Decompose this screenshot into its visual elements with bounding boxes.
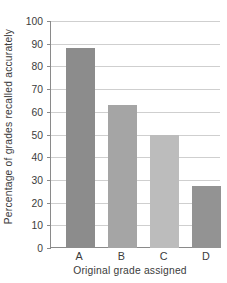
y-axis-tick-label: 100 xyxy=(26,16,43,27)
bar-b xyxy=(108,105,137,248)
y-axis-tick-mark xyxy=(47,135,51,136)
x-axis-title: Original grade assigned xyxy=(40,265,220,276)
y-axis-tick-mark xyxy=(47,21,51,22)
y-axis-tick-mark xyxy=(47,180,51,181)
y-axis-tick-mark xyxy=(47,225,51,226)
y-axis-tick-mark xyxy=(47,66,51,67)
y-axis-tick-label: 10 xyxy=(32,220,43,231)
gridline xyxy=(51,44,220,45)
y-axis-tick-label: 40 xyxy=(32,152,43,163)
x-axis-tick-label: B xyxy=(118,250,125,262)
y-axis-tick-mark xyxy=(47,157,51,158)
bar-c xyxy=(150,135,179,249)
gridline xyxy=(51,21,220,22)
y-axis-tick-label: 70 xyxy=(32,84,43,95)
y-axis-tick-mark xyxy=(47,89,51,90)
bar-d xyxy=(192,186,221,248)
y-axis-tick-label: 50 xyxy=(32,129,43,140)
bar-a xyxy=(66,48,95,248)
y-axis-tick-mark xyxy=(47,248,51,249)
x-axis-tick-labels: ABCD xyxy=(50,250,219,266)
y-axis-tick-label: 90 xyxy=(32,38,43,49)
y-axis-tick-labels: 0102030405060708090100 xyxy=(16,0,46,283)
plot-area xyxy=(50,21,220,248)
y-axis-tick-label: 80 xyxy=(32,61,43,72)
y-axis-tick-label: 0 xyxy=(37,243,43,254)
y-axis-tick-mark xyxy=(47,203,51,204)
x-axis-tick-label: D xyxy=(202,250,210,262)
bar-chart-figure: Percentage of grades recalled accurately… xyxy=(0,0,227,283)
y-axis-title-text: Percentage of grades recalled accurately xyxy=(4,28,15,223)
y-axis-tick-label: 60 xyxy=(32,106,43,117)
y-axis-tick-mark xyxy=(47,112,51,113)
y-axis-tick-label: 20 xyxy=(32,197,43,208)
y-axis-tick-mark xyxy=(47,44,51,45)
x-axis-tick-label: A xyxy=(76,250,83,262)
y-axis-tick-label: 30 xyxy=(32,174,43,185)
x-axis-tick-label: C xyxy=(160,250,168,262)
